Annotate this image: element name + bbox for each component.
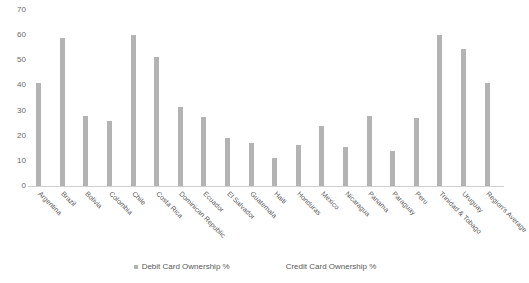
bar-debit	[131, 35, 136, 186]
x-axis-category: Peru	[408, 188, 432, 250]
bar-group	[101, 10, 125, 186]
chart-legend: Debit Card Ownership %Credit Card Owners…	[0, 262, 510, 272]
x-axis-category: Dominican Republic	[172, 188, 196, 250]
x-axis-category-label: Haiti	[272, 190, 288, 206]
bar-group	[124, 10, 148, 186]
x-axis-category: Brazil	[54, 188, 78, 250]
y-axis-tick-labels: 706050403020100	[0, 10, 26, 186]
y-axis-tick: 70	[17, 6, 26, 14]
legend-label: Credit Card Ownership %	[286, 262, 377, 272]
bar-group	[478, 10, 502, 186]
bar-debit	[225, 138, 230, 186]
legend-swatch-icon	[278, 265, 282, 269]
bar-group	[195, 10, 219, 186]
bar-debit	[319, 126, 324, 186]
bar-group	[431, 10, 455, 186]
x-axis-category-label: Region's Average	[484, 190, 528, 234]
x-axis-category: Colombia	[101, 188, 125, 250]
legend-swatch-icon	[134, 265, 138, 269]
bar-debit	[437, 35, 442, 186]
x-axis-category: Haiti	[266, 188, 290, 250]
x-axis-category: Ecuador	[195, 188, 219, 250]
bar-debit	[414, 118, 419, 186]
y-axis-tick: 0	[22, 182, 26, 190]
y-axis-tick: 10	[17, 157, 26, 165]
bar-group	[266, 10, 290, 186]
x-axis-category-labels: ArgentinaBrazilBoliviaColombiaChileCosta…	[30, 188, 502, 250]
bar-group	[337, 10, 361, 186]
bar-group	[384, 10, 408, 186]
bar-debit	[178, 107, 183, 186]
bar-debit	[83, 116, 88, 186]
y-axis-tick: 30	[17, 107, 26, 115]
bar-series-container	[30, 10, 502, 186]
x-axis-category: Argentina	[30, 188, 54, 250]
x-axis-category: Guatemala	[242, 188, 266, 250]
bar-debit	[272, 158, 277, 186]
legend-item[interactable]: Debit Card Ownership %	[134, 262, 230, 272]
bar-debit	[367, 116, 372, 186]
bar-group	[148, 10, 172, 186]
bar-group	[172, 10, 196, 186]
x-axis-category: Honduras	[290, 188, 314, 250]
x-axis-category-label: Peru	[414, 190, 430, 206]
bar-group	[219, 10, 243, 186]
bar-debit	[36, 83, 41, 186]
y-axis-tick: 40	[17, 81, 26, 89]
bar-debit	[154, 57, 159, 186]
bar-group	[77, 10, 101, 186]
legend-label: Debit Card Ownership %	[142, 262, 230, 272]
x-axis-category: Chile	[124, 188, 148, 250]
x-axis-category: Paraguay	[384, 188, 408, 250]
bar-group	[408, 10, 432, 186]
x-axis-line	[28, 186, 504, 187]
x-axis-category-label: Chile	[131, 190, 148, 207]
plot-area	[30, 10, 502, 186]
x-axis-category: Uruguay	[455, 188, 479, 250]
y-axis-tick: 60	[17, 31, 26, 39]
bar-group	[30, 10, 54, 186]
bar-debit	[461, 49, 466, 186]
y-axis-tick: 50	[17, 56, 26, 64]
bar-group	[455, 10, 479, 186]
bar-group	[360, 10, 384, 186]
bar-debit	[201, 117, 206, 186]
bar-debit	[249, 143, 254, 186]
x-axis-category: Mexico	[313, 188, 337, 250]
bar-debit	[107, 121, 112, 186]
x-axis-category: Panama	[360, 188, 384, 250]
bar-group	[242, 10, 266, 186]
bar-group	[54, 10, 78, 186]
y-axis-tick: 20	[17, 132, 26, 140]
bar-group	[313, 10, 337, 186]
bar-debit	[296, 145, 301, 186]
x-axis-category: Region's Average	[478, 188, 502, 250]
x-axis-category: Nicaragua	[337, 188, 361, 250]
x-axis-category: El Salvador	[219, 188, 243, 250]
x-axis-category: Bolivia	[77, 188, 101, 250]
legend-item[interactable]: Credit Card Ownership %	[278, 262, 377, 272]
bar-debit	[390, 151, 395, 186]
x-axis-category: Costa Rica	[148, 188, 172, 250]
bar-debit	[343, 147, 348, 186]
bar-debit	[60, 38, 65, 186]
x-axis-category-label: Brazil	[60, 190, 78, 208]
x-axis-category: Trinidad & Tobago	[431, 188, 455, 250]
bar-group	[290, 10, 314, 186]
bar-debit	[485, 83, 490, 186]
